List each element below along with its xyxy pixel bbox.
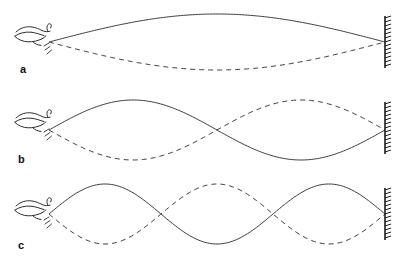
panel-c-drawing	[0, 172, 406, 264]
fixed-wall-support-icon	[385, 188, 391, 240]
wave-dashed-a	[49, 42, 385, 70]
panel-b-drawing	[0, 86, 406, 172]
wave-solid-c	[49, 184, 385, 244]
fixed-wall-support-icon	[385, 16, 391, 68]
wall-hatch-marks	[385, 188, 391, 238]
panel-c: c	[0, 172, 406, 264]
fixed-wall-support-icon	[385, 102, 391, 154]
figure-canvas: a	[0, 0, 406, 264]
wall-hatch-marks	[385, 102, 391, 152]
wave-group-a	[49, 14, 385, 70]
wave-group-b	[49, 100, 385, 160]
panel-label-c: c	[18, 240, 24, 251]
hand-holding-rope-icon	[15, 24, 51, 46]
panel-b: b	[0, 86, 406, 172]
vibration-motion-lines-icon	[44, 43, 52, 54]
hand-holding-rope-icon	[15, 110, 51, 132]
vibration-motion-lines-icon	[44, 217, 52, 228]
panel-label-b: b	[18, 154, 25, 165]
wall-hatch-marks	[385, 16, 391, 66]
panel-a-drawing	[0, 0, 406, 86]
panel-label-a: a	[20, 64, 26, 75]
panel-a: a	[0, 0, 406, 86]
wave-dashed-b	[49, 100, 385, 160]
wave-solid-a	[49, 14, 385, 42]
wave-group-c	[49, 184, 385, 244]
hand-holding-rope-icon	[15, 198, 51, 220]
wave-dashed-c	[49, 184, 385, 244]
